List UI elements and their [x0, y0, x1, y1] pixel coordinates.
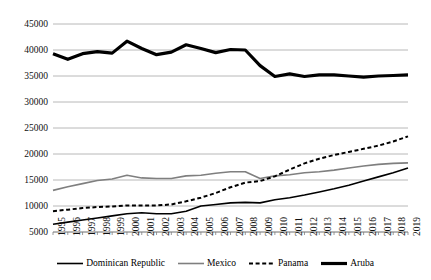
- y-tick-label: 5000: [0, 227, 48, 237]
- x-tick-label: 2009: [264, 217, 274, 236]
- y-tick-label: 10000: [0, 201, 48, 211]
- legend-label: Dominican Republic: [86, 258, 165, 269]
- x-tick-label: 2017: [383, 217, 393, 236]
- legend-item[interactable]: Panama: [249, 258, 308, 269]
- x-tick-label: 2010: [279, 217, 289, 236]
- x-tick-label: 1996: [72, 217, 82, 236]
- x-tick-label: 1995: [57, 217, 67, 236]
- x-tick-label: 2003: [176, 217, 186, 236]
- x-tick-label: 2001: [146, 217, 156, 236]
- x-tick-label: 2016: [368, 217, 378, 236]
- x-tick-label: 2005: [205, 217, 215, 236]
- x-tick-label: 2012: [309, 217, 319, 236]
- x-tick-label: 2004: [190, 217, 200, 236]
- gridlines: [53, 24, 408, 232]
- x-tick-label: 2006: [220, 217, 230, 236]
- series-line-aruba: [53, 41, 408, 77]
- x-tick-label: 1998: [102, 217, 112, 236]
- y-tick-label: 25000: [0, 123, 48, 133]
- legend-item[interactable]: Aruba: [321, 258, 374, 269]
- plot-area: [0, 0, 431, 280]
- legend-swatch-icon: [178, 260, 204, 267]
- x-tick-label: 2000: [131, 217, 141, 236]
- line-chart: 4500040000350003000025000200001500010000…: [0, 0, 431, 280]
- series-layer: [53, 41, 408, 224]
- x-tick-label: 2013: [323, 217, 333, 236]
- chart-legend: Dominican RepublicMexicoPanamaAruba: [0, 258, 431, 269]
- legend-label: Aruba: [350, 258, 374, 269]
- legend-item[interactable]: Mexico: [178, 258, 236, 269]
- y-tick-label: 20000: [0, 149, 48, 159]
- legend-swatch-icon: [249, 260, 275, 267]
- series-line-dominican-republic: [53, 168, 408, 224]
- x-tick-label: 2008: [249, 217, 259, 236]
- y-tick-label: 15000: [0, 175, 48, 185]
- x-tick-label: 2018: [397, 217, 407, 236]
- x-tick-label: 1999: [116, 217, 126, 236]
- legend-label: Panama: [278, 258, 308, 269]
- x-tick-label: 2014: [338, 217, 348, 236]
- x-tick-label: 2007: [235, 217, 245, 236]
- series-line-panama: [53, 136, 408, 211]
- y-tick-label: 35000: [0, 71, 48, 81]
- legend-label: Mexico: [207, 258, 236, 269]
- legend-item[interactable]: Dominican Republic: [57, 258, 165, 269]
- y-tick-label: 40000: [0, 45, 48, 55]
- y-tick-label: 45000: [0, 19, 48, 29]
- y-tick-label: 30000: [0, 97, 48, 107]
- x-tick-label: 2019: [412, 217, 422, 236]
- legend-swatch-icon: [57, 260, 83, 267]
- x-tick-label: 2011: [294, 217, 304, 236]
- x-tick-label: 2002: [161, 217, 171, 236]
- x-tick-label: 1997: [87, 217, 97, 236]
- x-tick-label: 2015: [353, 217, 363, 236]
- legend-swatch-icon: [321, 260, 347, 267]
